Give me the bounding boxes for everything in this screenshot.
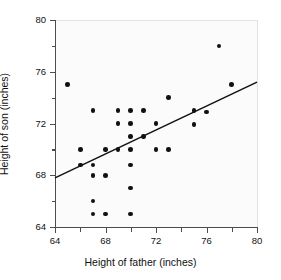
y-axis-line: [55, 20, 56, 228]
y-tick-label: 72: [35, 119, 46, 129]
data-point: [103, 173, 108, 178]
y-tick: [50, 124, 55, 125]
data-point: [204, 110, 209, 115]
data-point: [116, 147, 121, 152]
x-tick-label: 68: [100, 236, 111, 246]
y-tick-label: 64: [35, 222, 46, 232]
data-point: [166, 95, 171, 100]
x-minor-tick: [181, 228, 182, 232]
data-point: [128, 134, 133, 139]
y-minor-tick: [52, 46, 56, 47]
scatter-plot-figure: 64687276806468727680 Height of father (i…: [0, 0, 281, 280]
y-axis-title: Height of son (inches): [0, 73, 10, 175]
data-point: [141, 134, 146, 139]
x-tick: [257, 228, 258, 233]
data-point: [229, 82, 234, 87]
data-point: [78, 147, 83, 152]
y-minor-tick: [52, 201, 56, 202]
x-minor-tick: [131, 228, 132, 232]
x-tick-label: 80: [252, 236, 263, 246]
y-tick: [50, 227, 55, 228]
x-axis-title: Height of father (inches): [0, 256, 281, 268]
data-point: [128, 147, 133, 152]
plot-top-edge: [55, 20, 258, 21]
data-point: [128, 108, 133, 113]
data-point: [78, 163, 83, 168]
x-tick-label: 76: [201, 236, 212, 246]
y-tick: [50, 175, 55, 176]
x-tick: [207, 228, 208, 233]
x-tick: [55, 228, 56, 233]
x-tick-label: 64: [50, 236, 61, 246]
y-tick-label: 68: [35, 171, 46, 181]
y-minor-tick: [52, 149, 56, 150]
x-tick: [156, 228, 157, 233]
y-tick: [50, 72, 55, 73]
data-point: [141, 108, 146, 113]
plot-right-edge: [257, 20, 258, 228]
y-minor-tick: [52, 98, 56, 99]
data-point: [91, 108, 96, 113]
x-minor-tick: [80, 228, 81, 232]
data-point: [192, 108, 197, 113]
y-tick-label: 80: [35, 15, 46, 25]
data-point: [128, 121, 133, 126]
data-point: [103, 212, 108, 217]
x-minor-tick: [232, 228, 233, 232]
data-point: [154, 147, 159, 152]
data-point: [103, 147, 108, 152]
y-tick: [50, 20, 55, 21]
y-tick-label: 76: [35, 67, 46, 77]
data-point: [166, 147, 171, 152]
x-tick: [106, 228, 107, 233]
data-point: [65, 82, 70, 87]
x-tick-label: 72: [151, 236, 162, 246]
data-point: [154, 121, 159, 126]
data-point: [91, 173, 96, 178]
